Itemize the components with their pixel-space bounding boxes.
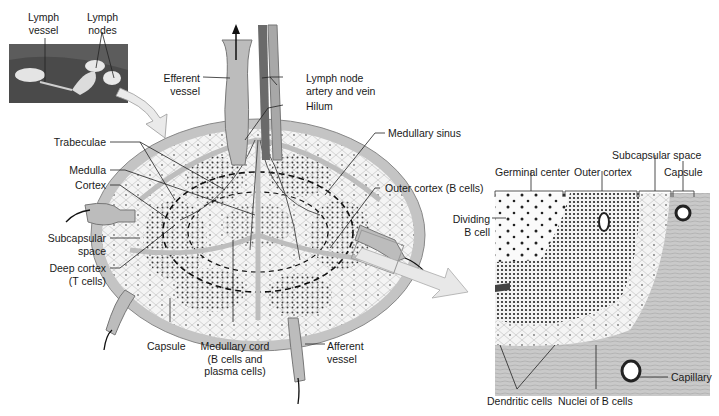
label-capsule-detail: Capsule (664, 166, 703, 179)
label-outer-cortex-b-cells: Outer cortex (B cells) (385, 182, 484, 195)
label-line: space (30, 245, 106, 258)
label-line: Dividing (440, 213, 490, 226)
label-line: Lymph (87, 11, 118, 24)
label-line: Medullary cord (197, 340, 273, 353)
label-deep-cortex: Deep cortex(T cells) (30, 262, 106, 287)
label-efferent-vessel: Efferentvessel (160, 72, 200, 97)
label-line: artery and vein (306, 85, 375, 98)
label-lymph-vessel: Lymphvessel (28, 11, 59, 36)
label-cortex: Cortex (40, 179, 106, 192)
label-line: (B cells and (197, 353, 273, 366)
label-medullary-sinus: Medullary sinus (388, 127, 461, 140)
micro-detail-panel (495, 191, 710, 396)
label-artery-vein: Lymph nodeartery and vein (306, 72, 375, 97)
label-lymph-nodes: Lymphnodes (87, 11, 118, 36)
label-medulla: Medulla (40, 164, 106, 177)
label-line: vessel (28, 24, 59, 37)
label-nuclei-b-cells: Nuclei of B cells (558, 395, 633, 408)
label-germinal-center: Germinal center (495, 166, 570, 179)
label-hilum: Hilum (306, 100, 333, 113)
label-dendritic-cells: Dendritic cells (487, 395, 552, 408)
label-line: nodes (87, 24, 118, 37)
label-subcapsular-space-detail: Subcapsular space (612, 149, 701, 162)
inset-photo (9, 44, 128, 103)
label-medullary-cord: Medullary cord(B cells andplasma cells) (197, 340, 273, 378)
label-dividing-b-cell: DividingB cell (440, 213, 490, 238)
label-line: B cell (440, 226, 490, 239)
label-subcapsular-space: Subcapsularspace (30, 232, 106, 257)
label-line: Afferent (327, 340, 364, 353)
label-line: Efferent (160, 72, 200, 85)
label-line: (T cells) (30, 275, 106, 288)
label-outer-cortex: Outer cortex (574, 166, 632, 179)
label-line: vessel (327, 353, 364, 366)
label-line: Lymph (28, 11, 59, 24)
label-line: plasma cells) (197, 365, 273, 378)
label-capillary: Capillary (671, 371, 712, 384)
label-line: vessel (160, 85, 200, 98)
label-line: Lymph node (306, 72, 375, 85)
label-line: Subcapsular (30, 232, 106, 245)
label-line: Deep cortex (30, 262, 106, 275)
label-trabeculae: Trabeculae (40, 136, 106, 149)
label-afferent-vessel: Afferentvessel (327, 340, 364, 365)
label-capsule: Capsule (147, 340, 186, 353)
